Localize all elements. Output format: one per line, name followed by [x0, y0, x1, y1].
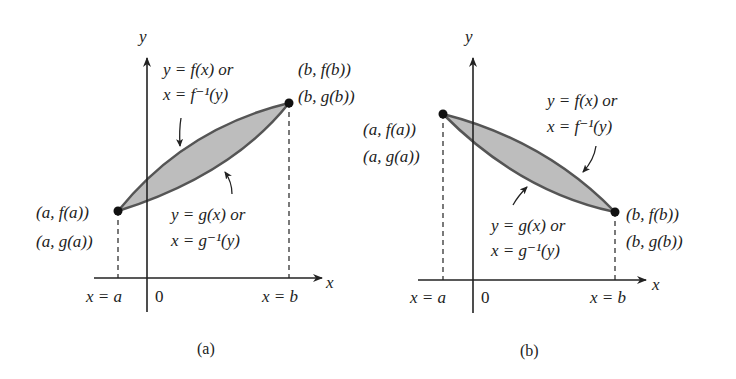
x-axis-label-b: x	[651, 275, 660, 294]
caption-a: (a)	[197, 340, 215, 358]
y-axis-label-b: y	[463, 27, 473, 46]
lower-curve-label-line1-b: y = g(x) or	[489, 216, 566, 235]
lower-curve-label-line1-a: y = g(x) or	[169, 205, 246, 224]
point-b-label-line2-a: (b, g(b))	[298, 87, 355, 106]
point-a-label-line1-a: (a, f(a))	[36, 203, 89, 222]
origin-label-b: 0	[481, 288, 490, 307]
y-axis-label-a: y	[137, 27, 147, 46]
upper-curve-label-line2-b: x = f⁻¹(y)	[546, 117, 613, 136]
diagram-canvas: y x 0 x = a x = b y = f(x) or x = f⁻¹(y)…	[0, 0, 736, 379]
x-equals-a-label-b: x = a	[409, 288, 446, 307]
endpoint-a-b	[439, 110, 448, 119]
endpoint-b	[285, 99, 294, 108]
arrow-to-upper-curve-b	[583, 146, 596, 172]
x-equals-b-label: x = b	[261, 287, 298, 306]
x-equals-a-label: x = a	[85, 287, 122, 306]
lower-curve-label-line2-a: x = g⁻¹(y)	[170, 231, 240, 250]
upper-curve-label-line2-a: x = f⁻¹(y)	[162, 85, 229, 104]
panel-b: y x 0 x = a x = b y = f(x) or x = f⁻¹(y)…	[363, 27, 683, 360]
point-a-label-line1-b: (a, f(a))	[363, 120, 416, 139]
caption-b: (b)	[520, 342, 539, 360]
point-b-label-line1-a: (b, f(b))	[298, 60, 351, 79]
endpoint-a	[114, 207, 123, 216]
x-equals-b-label-b: x = b	[589, 288, 626, 307]
point-a-label-line2-b: (a, g(a))	[363, 147, 420, 166]
lower-curve-label-line2-b: x = g⁻¹(y)	[490, 241, 560, 260]
point-a-label-line2-a: (a, g(a))	[36, 232, 93, 251]
origin-label-a: 0	[155, 287, 164, 306]
x-axis-label-a: x	[325, 273, 334, 292]
point-b-label-line1-b: (b, f(b))	[626, 205, 679, 224]
shaded-region-a	[118, 103, 289, 211]
endpoint-b-b	[611, 208, 620, 217]
upper-curve-label-line1-a: y = f(x) or	[161, 60, 234, 79]
arrow-to-lower-curve-b	[513, 187, 527, 205]
upper-curve-label-line1-b: y = f(x) or	[545, 91, 618, 110]
panel-a: y x 0 x = a x = b y = f(x) or x = f⁻¹(y)…	[36, 27, 355, 358]
arrow-to-lower-curve-a	[225, 172, 232, 194]
point-b-label-line2-b: (b, g(b))	[626, 232, 683, 251]
arrow-to-upper-curve-a	[180, 118, 181, 146]
